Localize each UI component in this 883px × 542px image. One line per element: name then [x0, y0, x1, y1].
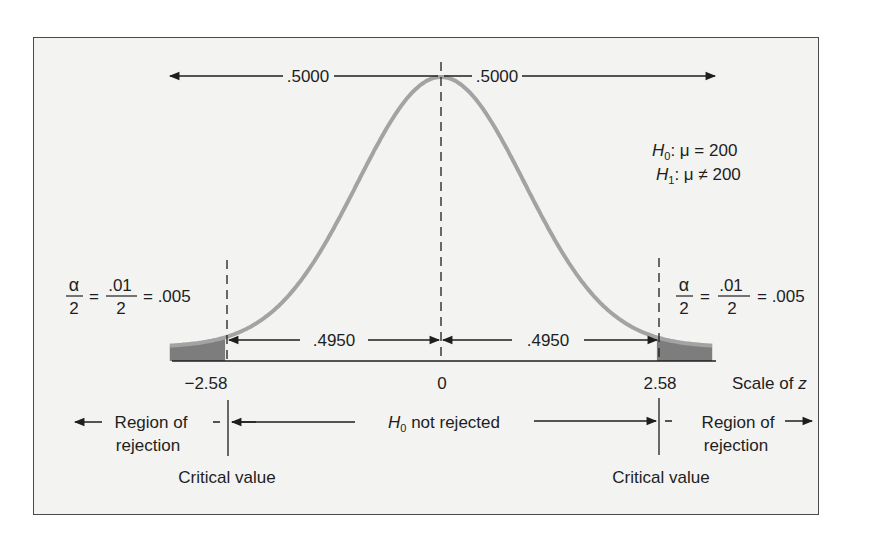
svg-text:=: = — [89, 287, 99, 306]
svg-text:2: 2 — [727, 299, 736, 318]
region-right-line1: Region of — [702, 413, 775, 432]
region-right-line2: rejection — [704, 436, 768, 455]
svg-text:α: α — [69, 275, 79, 295]
svg-text:= .005: = .005 — [757, 287, 805, 306]
svg-text:2: 2 — [679, 299, 688, 318]
right-tail-formula: α 2 = .01 2 = .005 — [676, 275, 805, 318]
svg-text:α: α — [679, 275, 689, 295]
region-left-line1: Region of — [115, 413, 188, 432]
tick-label-neg: −2.58 — [184, 374, 227, 393]
null-hypothesis: H0: μ = 200 — [652, 141, 737, 162]
svg-text:.01: .01 — [108, 276, 132, 295]
critical-value-right: Critical value — [612, 468, 709, 487]
scale-of-z-label: Scale of z — [732, 374, 807, 393]
svg-text:2: 2 — [69, 299, 78, 318]
left-tail-formula: α 2 = .01 2 = .005 — [66, 275, 191, 318]
svg-text:.01: .01 — [719, 276, 743, 295]
region-left-line2: rejection — [116, 436, 180, 455]
critical-value-left: Critical value — [178, 468, 275, 487]
center-right-label: .4950 — [527, 331, 570, 350]
tick-label-pos: 2.58 — [643, 374, 676, 393]
alternative-hypothesis: H1: μ ≠ 200 — [656, 165, 741, 186]
svg-text:= .005: = .005 — [143, 287, 191, 306]
center-left-label: .4950 — [313, 331, 356, 350]
tick-label-zero: 0 — [437, 374, 446, 393]
normal-curve-diagram: .5000 .5000 .4950 .4950 −2.58 0 2.58 Sca… — [0, 0, 883, 542]
svg-text:2: 2 — [116, 299, 125, 318]
half-right-label: .5000 — [476, 67, 519, 86]
not-rejected-label: H0 not rejected — [388, 413, 500, 434]
half-left-label: .5000 — [287, 67, 330, 86]
svg-text:=: = — [700, 287, 710, 306]
